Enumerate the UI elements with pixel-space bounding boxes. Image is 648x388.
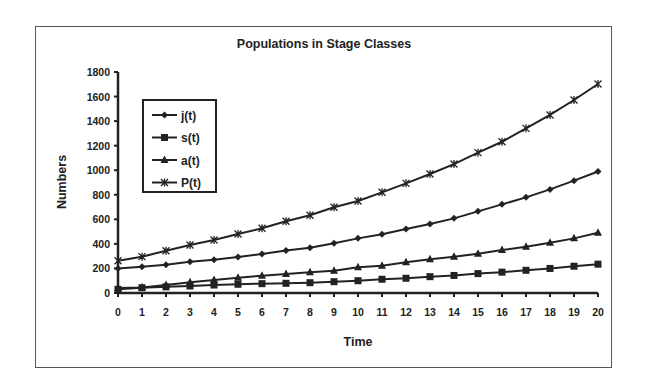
square-marker <box>379 276 386 283</box>
diamond-marker <box>427 220 434 227</box>
x-star-marker <box>499 138 506 146</box>
diamond-marker <box>235 254 242 261</box>
legend-label: j(t) <box>180 109 196 123</box>
y-tick-label: 600 <box>92 213 110 225</box>
y-tick-label: 1200 <box>87 140 111 152</box>
square-marker <box>427 273 434 280</box>
square-marker <box>331 278 338 285</box>
square-marker <box>571 263 578 270</box>
x-tick-label: 7 <box>283 306 289 318</box>
y-axis: 020040060080010001200140016001800 <box>87 66 118 299</box>
x-tick-label: 19 <box>568 306 580 318</box>
y-tick-label: 400 <box>92 238 110 250</box>
x-tick-label: 18 <box>544 306 556 318</box>
legend-label: s(t) <box>181 131 200 145</box>
triangle-marker <box>594 228 602 236</box>
diamond-marker <box>379 231 386 238</box>
y-tick-label: 1800 <box>87 66 111 78</box>
diamond-marker <box>475 208 482 215</box>
diamond-marker <box>139 263 146 270</box>
square-marker <box>283 280 290 287</box>
legend-box <box>143 100 216 192</box>
diamond-marker <box>523 194 530 201</box>
x-tick-label: 3 <box>187 306 193 318</box>
diamond-marker <box>307 244 314 251</box>
x-tick-label: 15 <box>472 306 484 318</box>
diamond-marker <box>187 258 194 265</box>
square-marker <box>499 269 506 276</box>
square-marker <box>547 265 554 272</box>
y-tick-label: 1400 <box>87 115 111 127</box>
x-star-marker <box>523 124 530 132</box>
y-tick-label: 200 <box>92 262 110 274</box>
diamond-marker <box>283 247 290 254</box>
diamond-marker <box>403 226 410 233</box>
x-star-marker <box>547 111 554 119</box>
x-tick-label: 2 <box>163 306 169 318</box>
diamond-marker <box>211 256 218 263</box>
diamond-marker <box>115 265 122 272</box>
diamond-marker <box>163 261 170 268</box>
x-axis-label: Time <box>344 335 373 349</box>
chart-title: Populations in Stage Classes <box>237 37 411 51</box>
diamond-marker <box>331 240 338 247</box>
y-tick-label: 800 <box>92 189 110 201</box>
square-marker <box>355 277 362 284</box>
x-tick-label: 14 <box>448 306 460 318</box>
square-marker <box>523 267 530 274</box>
legend-label: a(t) <box>181 154 200 168</box>
x-axis: 01234567891011121314151617181920 <box>115 293 604 318</box>
diamond-marker <box>571 177 578 184</box>
y-tick-label: 1000 <box>87 164 111 176</box>
diamond-marker <box>355 235 362 242</box>
square-marker <box>451 272 458 279</box>
x-tick-label: 1 <box>139 306 145 318</box>
diamond-marker <box>499 201 506 208</box>
x-tick-label: 9 <box>331 306 337 318</box>
x-tick-label: 13 <box>424 306 436 318</box>
diamond-marker <box>451 215 458 222</box>
x-tick-label: 5 <box>235 306 241 318</box>
line-chart: Populations in Stage Classes Numbers Tim… <box>0 0 648 388</box>
x-tick-label: 17 <box>520 306 532 318</box>
x-tick-label: 10 <box>352 306 364 318</box>
x-star-marker <box>595 80 602 88</box>
diamond-marker <box>259 250 266 257</box>
x-tick-label: 4 <box>211 306 217 318</box>
square-marker <box>307 279 314 286</box>
square-marker <box>595 261 602 268</box>
x-tick-label: 16 <box>496 306 508 318</box>
x-tick-label: 12 <box>400 306 412 318</box>
x-star-marker <box>475 149 482 157</box>
square-marker <box>475 270 482 277</box>
square-marker <box>161 134 168 141</box>
x-star-marker <box>571 96 578 104</box>
y-tick-label: 1600 <box>87 91 111 103</box>
square-marker <box>235 281 242 288</box>
diamond-marker <box>595 168 602 175</box>
y-tick-label: 0 <box>104 287 110 299</box>
diamond-marker <box>547 186 554 193</box>
x-tick-label: 0 <box>115 306 121 318</box>
square-marker <box>403 275 410 282</box>
x-tick-label: 20 <box>592 306 604 318</box>
x-tick-label: 6 <box>259 306 265 318</box>
x-tick-label: 11 <box>376 306 387 318</box>
x-tick-label: 8 <box>307 306 313 318</box>
legend: j(t)s(t)a(t)P(t) <box>143 100 216 192</box>
y-axis-label: Numbers <box>55 155 69 209</box>
legend-label: P(t) <box>181 176 201 190</box>
square-marker <box>259 280 266 287</box>
